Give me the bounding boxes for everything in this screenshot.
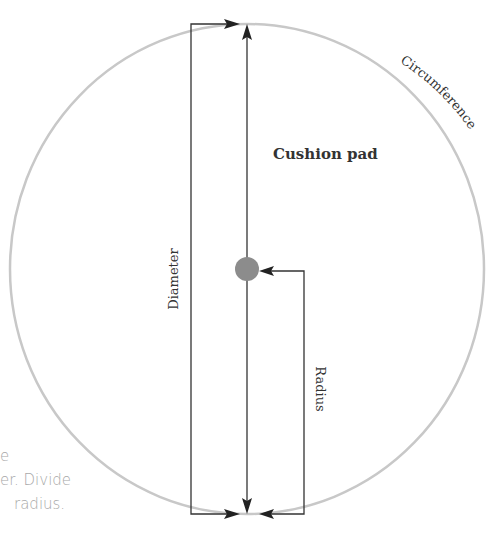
radius-bracket: [259, 266, 304, 519]
cushion-pad-label: Cushion pad: [273, 145, 378, 163]
radius-label: Radius: [313, 366, 328, 411]
caption-line: er. Divide: [0, 468, 200, 492]
center-point: [235, 257, 259, 281]
caption-line: radius.: [0, 492, 200, 516]
caption-line: e: [0, 444, 200, 468]
diameter-label: Diameter: [166, 247, 181, 309]
side-caption: e er. Divide radius.: [0, 444, 200, 516]
